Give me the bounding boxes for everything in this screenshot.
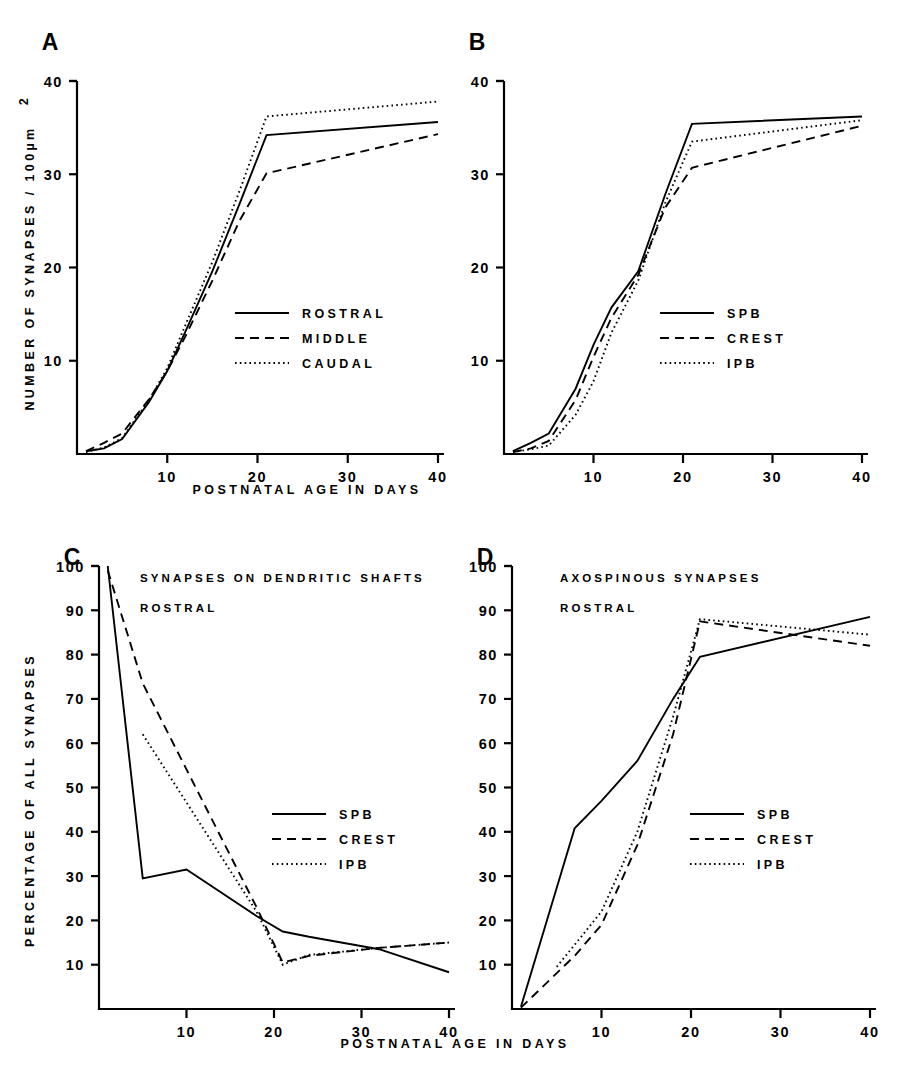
- y-tick-label: 10: [479, 957, 498, 973]
- series-line-crest: [513, 126, 862, 452]
- legend-label-rostral: ROSTRAL: [302, 307, 386, 321]
- y-tick-label: 100: [469, 559, 498, 575]
- y-tick-label: 30: [44, 167, 63, 183]
- series-line-spb: [513, 116, 862, 451]
- panel-subtitle-d: ROSTRAL: [560, 602, 637, 614]
- x-tick-label: 30: [763, 469, 782, 485]
- multi-panel-line-chart: A1020304010203040ROSTRALMIDDLECAUDALB102…: [0, 0, 899, 1090]
- panel-title-d: AXOSPINOUS SYNAPSES: [560, 572, 761, 584]
- series-line-caudal: [86, 102, 438, 453]
- y-tick-label: 10: [66, 957, 85, 973]
- x-tick-label: 10: [592, 1024, 611, 1040]
- series-line-spb: [108, 566, 449, 972]
- legend-label-spb: SPB: [757, 808, 793, 822]
- x-tick-label: 40: [428, 469, 447, 485]
- axis-lines-c: [99, 566, 455, 1009]
- y-tick-label: 40: [471, 74, 490, 90]
- x-tick-label: 10: [584, 469, 603, 485]
- y-tick-label: 20: [44, 260, 63, 276]
- axis-lines-d: [512, 566, 876, 1009]
- y-tick-label: 10: [471, 353, 490, 369]
- series-line-crest: [108, 570, 449, 962]
- panel-letter-b: B: [469, 29, 486, 55]
- panel-subtitle-c: ROSTRAL: [140, 602, 217, 614]
- panel-d: D10203040506070809010010203040AXOSPINOUS…: [469, 544, 880, 1040]
- series-line-spb: [521, 617, 870, 1007]
- x-tick-label: 40: [852, 469, 871, 485]
- legend-label-crest: CREST: [757, 833, 816, 847]
- series-line-ipb: [513, 120, 862, 452]
- y-tick-label: 60: [479, 736, 498, 752]
- x-tick-label: 20: [673, 469, 692, 485]
- y-tick-label: 30: [479, 869, 498, 885]
- panel-title-c: SYNAPSES ON DENDRITIC SHAFTS: [140, 572, 425, 584]
- y-tick-label: 60: [66, 736, 85, 752]
- x-tick-label: 10: [177, 1024, 196, 1040]
- y-tick-label: 50: [66, 780, 85, 796]
- legend-label-middle: MIDDLE: [302, 332, 370, 346]
- legend-label-spb: SPB: [727, 307, 763, 321]
- legend-label-ipb: IPB: [757, 858, 788, 872]
- legend-label-ipb: IPB: [727, 357, 758, 371]
- y-axis-title-top-superscript: 2: [17, 95, 31, 105]
- x-tick-label: 20: [264, 1024, 283, 1040]
- x-tick-label: 40: [860, 1024, 879, 1040]
- axis-lines-a: [77, 81, 444, 454]
- panel-letter-a: A: [42, 29, 59, 55]
- y-tick-label: 40: [479, 824, 498, 840]
- figure-root: A1020304010203040ROSTRALMIDDLECAUDALB102…: [0, 0, 899, 1090]
- series-line-middle: [86, 134, 438, 451]
- y-tick-label: 100: [56, 559, 85, 575]
- y-tick-label: 80: [479, 647, 498, 663]
- legend-label-ipb: IPB: [339, 858, 370, 872]
- y-tick-label: 40: [66, 824, 85, 840]
- y-tick-label: 30: [471, 167, 490, 183]
- y-tick-label: 90: [66, 603, 85, 619]
- panel-a: A1020304010203040ROSTRALMIDDLECAUDAL: [42, 29, 448, 485]
- y-tick-label: 50: [479, 780, 498, 796]
- panel-b: B1020304010203040SPBCRESTIPB: [469, 29, 872, 485]
- y-axis-title-top: NUMBER OF SYNAPSES / 100µm: [23, 125, 37, 410]
- y-tick-label: 70: [479, 691, 498, 707]
- y-tick-label: 90: [479, 603, 498, 619]
- series-line-ipb: [143, 734, 449, 964]
- x-tick-label: 30: [771, 1024, 790, 1040]
- y-axis-title-bottom: PERCENTAGE OF ALL SYNAPSES: [23, 653, 37, 947]
- legend-label-crest: CREST: [727, 332, 786, 346]
- x-tick-label: 20: [681, 1024, 700, 1040]
- series-line-rostral: [86, 122, 438, 451]
- panel-c: C10203040506070809010010203040SYNAPSES O…: [56, 544, 459, 1040]
- x-axis-title-bottom: POSTNATAL AGE IN DAYS: [341, 1037, 570, 1051]
- y-tick-label: 40: [44, 74, 63, 90]
- y-tick-label: 30: [66, 869, 85, 885]
- legend-label-crest: CREST: [339, 833, 398, 847]
- y-tick-label: 20: [66, 913, 85, 929]
- y-tick-label: 70: [66, 691, 85, 707]
- y-tick-label: 80: [66, 647, 85, 663]
- legend-label-spb: SPB: [339, 808, 375, 822]
- x-tick-label: 10: [158, 469, 177, 485]
- series-line-ipb: [557, 619, 870, 967]
- legend-label-caudal: CAUDAL: [302, 357, 375, 371]
- y-tick-label: 20: [479, 913, 498, 929]
- x-axis-title-top: POSTNATAL AGE IN DAYS: [193, 483, 422, 497]
- y-tick-label: 20: [471, 260, 490, 276]
- y-tick-label: 10: [44, 353, 63, 369]
